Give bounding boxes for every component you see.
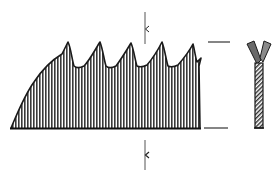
cross-section-y [247,41,271,128]
pitch-marker-top [145,12,149,44]
pitch-marker-bottom [145,140,149,170]
arrow-tick-icon [146,26,150,32]
saw-blade-body [0,30,210,130]
arrow-tick-icon [146,152,150,158]
diagram-svg [0,0,280,177]
saw-blade-diagram: Saw blade tooth profile with set cross-s… [0,0,280,177]
